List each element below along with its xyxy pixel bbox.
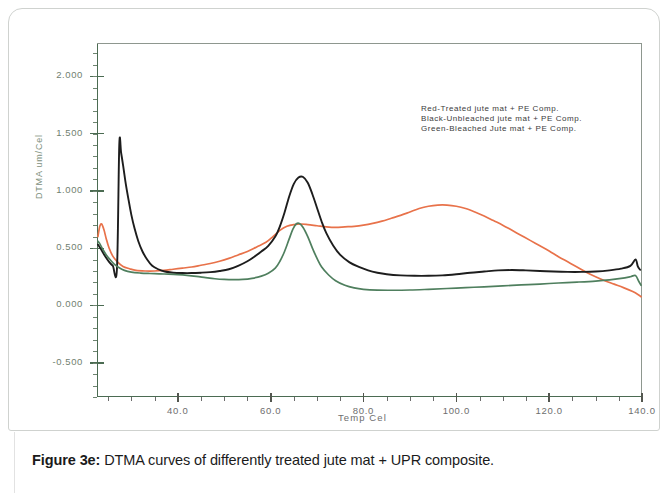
legend: Red-Treated jute mat + PE Comp. Black-Un…: [421, 104, 582, 135]
x-minor-tick: [108, 397, 109, 401]
x-axis-title: Temp Cel: [338, 412, 387, 423]
x-minor-tick: [247, 397, 248, 401]
x-minor-tick: [294, 397, 295, 401]
y-tick-label: 1.000: [56, 184, 83, 195]
caption-label: Figure 3e:: [32, 452, 100, 468]
x-minor-tick: [387, 397, 388, 401]
y-tick-label: -0.500: [52, 356, 83, 367]
x-minor-tick: [526, 397, 527, 401]
scan-edge-line: [14, 432, 15, 493]
x-minor-tick: [619, 397, 620, 401]
x-minor-tick: [131, 397, 132, 401]
legend-line-green: Green-Bleached Jute mat + PE Comp.: [421, 124, 582, 134]
x-minor-tick: [201, 397, 202, 401]
x-tick-label: 120.0: [536, 405, 563, 416]
x-minor-tick: [317, 397, 318, 401]
x-tick-label: 60.0: [260, 405, 281, 416]
plot-area: 2.0001.5001.0000.5000.000-0.500 40.060.0…: [97, 43, 642, 397]
figure-caption: Figure 3e: DTMA curves of differently tr…: [32, 452, 652, 468]
x-minor-tick: [433, 397, 434, 401]
y-tick-label: 0.500: [56, 241, 83, 252]
x-minor-tick: [155, 397, 156, 401]
x-minor-tick: [410, 397, 411, 401]
legend-line-red: Red-Treated jute mat + PE Comp.: [421, 104, 582, 114]
x-minor-tick: [340, 397, 341, 401]
x-minor-tick: [572, 397, 573, 401]
x-tick-label: 100.0: [443, 405, 470, 416]
y-tick-label: 1.500: [56, 127, 83, 138]
y-axis-title: DTMA um/Cel: [34, 134, 44, 199]
y-tick-label: 0.000: [56, 298, 83, 309]
legend-line-black: Black-Unbleached jute mat + PE Comp.: [421, 114, 582, 124]
x-minor-tick: [480, 397, 481, 401]
y-minor-tick: [93, 397, 97, 398]
x-minor-tick: [503, 397, 504, 401]
dtma-curves: [97, 43, 642, 397]
caption-text: DTMA curves of differently treated jute …: [100, 452, 494, 468]
figure-card: 2.0001.5001.0000.5000.000-0.500 40.060.0…: [8, 8, 660, 431]
y-tick-label: 2.000: [56, 69, 83, 80]
x-tick-label: 140.0: [628, 405, 655, 416]
x-minor-tick: [224, 397, 225, 401]
x-tick-label: 40.0: [167, 405, 188, 416]
x-minor-tick: [596, 397, 597, 401]
